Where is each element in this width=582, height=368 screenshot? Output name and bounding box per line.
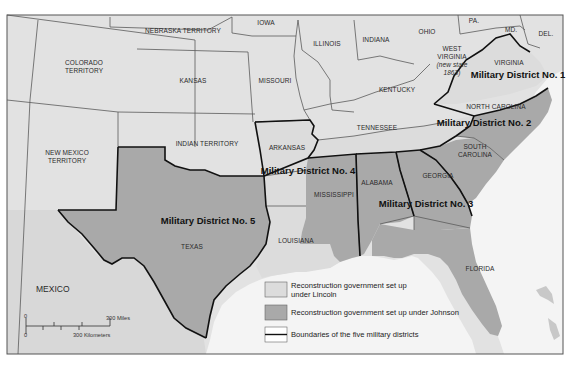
label-district-5: Military District No. 5 — [161, 215, 256, 226]
label-louisiana: LOUISIANA — [278, 237, 314, 244]
label-west-virginia-2: VIRGINIA — [437, 53, 467, 60]
label-ohio: OHIO — [418, 28, 435, 35]
label-kansas: KANSAS — [180, 77, 208, 84]
label-west-virginia-3: (new state — [437, 61, 468, 69]
label-south-carolina: SOUTH — [463, 143, 486, 150]
label-virginia: VIRGINIA — [494, 59, 524, 66]
label-del: DEL. — [539, 30, 554, 37]
label-indian-territory: INDIAN TERRITORY — [176, 140, 239, 147]
scale-miles-label: 300 Miles — [106, 315, 130, 321]
label-nebraska: NEBRASKA TERRITORY — [145, 27, 221, 34]
label-mississippi: MISSISSIPPI — [314, 191, 354, 198]
legend-swatch-lincoln — [265, 282, 287, 297]
label-district-4: Military District No. 4 — [261, 165, 356, 176]
label-north-carolina: NORTH CAROLINA — [466, 103, 526, 110]
label-district-1: Military District No. 1 — [471, 69, 566, 80]
scale-miles-zero: 0 — [24, 313, 27, 319]
legend-lincoln-line2: under Lincoln — [291, 290, 337, 299]
label-illinois: ILLINOIS — [313, 40, 341, 47]
legend-swatch-johnson — [265, 305, 287, 320]
label-new-mexico: NEW MEXICO — [45, 149, 89, 156]
label-district-3: Military District No. 3 — [379, 198, 474, 209]
legend-johnson: Reconstruction government set up under J… — [291, 308, 459, 317]
label-south-carolina-2: CAROLINA — [458, 151, 493, 158]
label-kentucky: KENTUCKY — [379, 86, 416, 93]
legend-lincoln-line1: Reconstruction government set up — [291, 281, 407, 290]
label-arkansas: ARKANSAS — [269, 144, 306, 151]
label-texas: TEXAS — [181, 243, 203, 250]
scale-km-zero: 0 — [24, 332, 27, 338]
label-district-2: Military District No. 2 — [437, 117, 532, 128]
label-colorado: COLORADO — [65, 59, 103, 66]
reconstruction-map: NEBRASKA TERRITORY IOWA ILLINOIS INDIANA… — [0, 0, 582, 368]
label-md: MD. — [505, 26, 517, 33]
label-missouri: MISSOURI — [259, 77, 292, 84]
label-alabama: ALABAMA — [361, 179, 393, 186]
label-indiana: INDIANA — [362, 36, 390, 43]
label-west-virginia-4: 1863) — [443, 69, 460, 77]
label-iowa: IOWA — [257, 19, 275, 26]
label-georgia: GEORGIA — [422, 172, 454, 179]
label-new-mexico-2: TERRITORY — [48, 157, 87, 164]
label-tennessee: TENNESSEE — [357, 124, 398, 131]
label-mexico: MEXICO — [36, 284, 70, 294]
label-pa: PA. — [469, 17, 479, 24]
label-florida: FLORIDA — [466, 265, 495, 272]
label-west-virginia: WEST — [442, 45, 461, 52]
label-colorado-2: TERRITORY — [65, 67, 104, 74]
legend-boundary: Boundaries of the five military district… — [291, 330, 419, 339]
scale-km-label: 300 Kilometers — [73, 332, 111, 338]
